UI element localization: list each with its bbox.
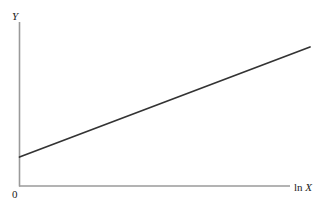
origin-label: 0 [12, 189, 18, 200]
semilog-line-chart: Y ln X 0 [0, 0, 328, 210]
x-axis-label-function: ln [294, 181, 303, 193]
chart-canvas [0, 0, 328, 210]
x-axis-label: ln X [294, 182, 312, 193]
x-axis-label-variable: X [305, 181, 312, 193]
data-line-series-1 [20, 47, 311, 157]
y-axis-label: Y [12, 11, 18, 22]
